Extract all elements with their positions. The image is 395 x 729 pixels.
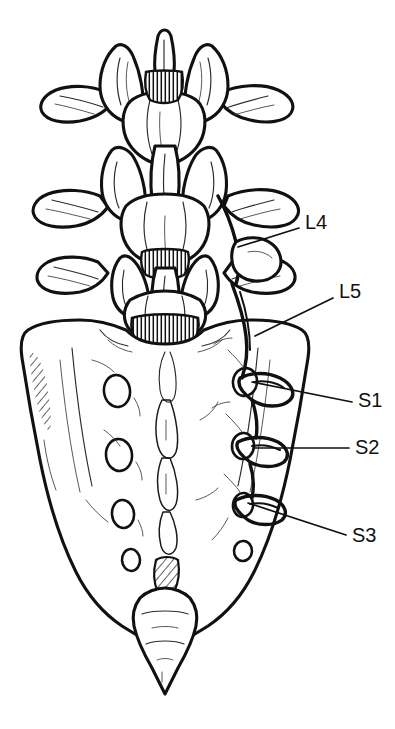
label-l5: L5 <box>339 280 361 302</box>
label-s3: S3 <box>352 524 376 546</box>
label-s2: S2 <box>355 436 379 458</box>
anatomical-figure: L4 L5 S1 S2 S3 <box>0 0 395 729</box>
label-l4: L4 <box>305 211 327 233</box>
label-s1: S1 <box>358 389 382 411</box>
disc-space-upper <box>145 71 183 104</box>
